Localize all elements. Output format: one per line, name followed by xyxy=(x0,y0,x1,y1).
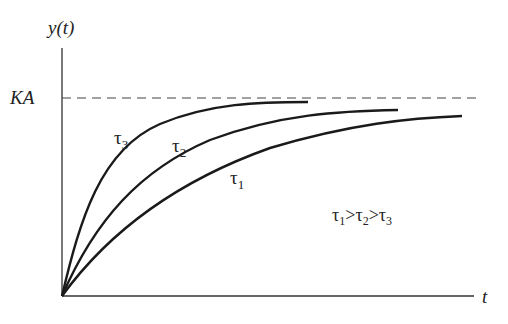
y-axis-label: y(t) xyxy=(46,17,74,39)
step-response-diagram: y(t) t KA τ3 τ2 τ1 τ1>τ2>τ3 xyxy=(0,0,508,324)
curve-tau2 xyxy=(62,110,398,296)
tau2-label: τ2 xyxy=(172,135,186,160)
asymptote-label: KA xyxy=(9,87,35,108)
x-axis-label: t xyxy=(482,286,488,307)
curve-tau3 xyxy=(62,102,308,296)
tau-relation-annotation: τ1>τ2>τ3 xyxy=(332,205,392,228)
tau3-label: τ3 xyxy=(114,127,128,152)
tau1-label: τ1 xyxy=(230,167,244,192)
